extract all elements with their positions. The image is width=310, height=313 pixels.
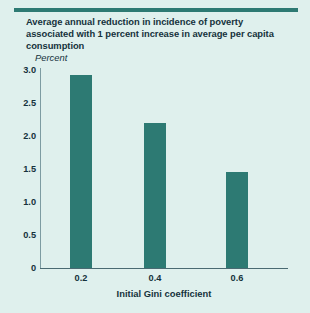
y-tick-label: 2.0 xyxy=(8,131,36,141)
y-tick-label: 2.5 xyxy=(8,98,36,108)
bar xyxy=(144,123,166,268)
y-tick-label: 0 xyxy=(8,263,36,273)
y-tick-label: 1.5 xyxy=(8,164,36,174)
y-tick-label: 3.0 xyxy=(8,65,36,75)
x-axis-title: Initial Gini coefficient xyxy=(40,288,288,299)
chart-figure: Average annual reduction in incidence of… xyxy=(0,0,310,313)
x-axis-line xyxy=(40,268,288,269)
x-tick-label: 0.6 xyxy=(207,273,267,283)
y-tick-label: 0.5 xyxy=(8,230,36,240)
plot-area: 00.51.01.52.02.53.0 0.20.40.6 Initial Gi… xyxy=(0,0,310,313)
y-tick-label: 1.0 xyxy=(8,197,36,207)
bar xyxy=(226,172,248,268)
bar xyxy=(70,75,92,268)
x-tick-label: 0.2 xyxy=(51,273,111,283)
x-tick-label: 0.4 xyxy=(125,273,185,283)
y-axis-line xyxy=(40,68,41,269)
